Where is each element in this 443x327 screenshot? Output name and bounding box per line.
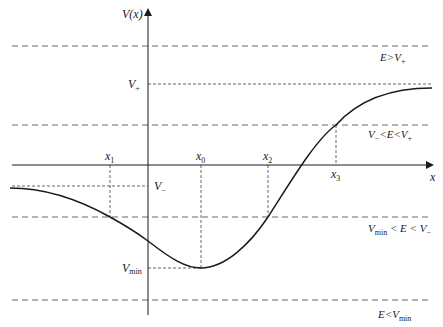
x1-label: x1 xyxy=(104,149,114,165)
x0-label: x0 xyxy=(195,149,205,165)
x3-label: x3 xyxy=(330,167,340,183)
y-axis-label: V(x) xyxy=(122,7,143,21)
potential-energy-diagram: V(x) x V+ V− Vmin E>V+ V−<E<V+ Vmin < E … xyxy=(0,0,443,327)
v-min-label: Vmin xyxy=(122,261,142,276)
v-minus-label: V− xyxy=(154,179,166,195)
e-lt-vmin-label: E<Vmin xyxy=(377,308,411,323)
potential-curve xyxy=(10,88,432,268)
x-axis-label: x xyxy=(429,170,436,184)
v-plus-label: V+ xyxy=(128,77,140,93)
turning-point-lines xyxy=(110,125,336,268)
vmin-lt-e-lt-vminus-label: Vmin < E < V− xyxy=(368,222,431,237)
vminus-lt-e-lt-vplus-label: V−<E<V+ xyxy=(368,128,413,143)
e-gt-vplus-label: E>V+ xyxy=(379,51,406,66)
x2-label: x2 xyxy=(262,149,272,165)
